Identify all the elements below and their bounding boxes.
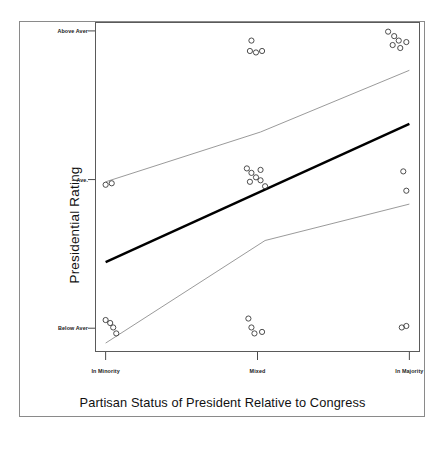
y-axis-title: Presidential Rating	[67, 166, 82, 283]
x-axis-tick-label: Mixed	[250, 368, 266, 374]
x-axis-tick-label: In Majority	[395, 368, 423, 374]
chart-figure: Presidential Rating Partisan Status of P…	[0, 0, 445, 449]
y-axis-tick-label: Above Aver	[48, 28, 88, 34]
y-axis-tick-label: Ave.	[48, 177, 88, 183]
x-axis-tick-label: In Minority	[91, 368, 119, 374]
y-axis-tick-label: Below Aver	[48, 325, 88, 331]
plot-panel	[95, 22, 420, 352]
x-axis-title: Partisan Status of President Relative to…	[0, 395, 445, 410]
